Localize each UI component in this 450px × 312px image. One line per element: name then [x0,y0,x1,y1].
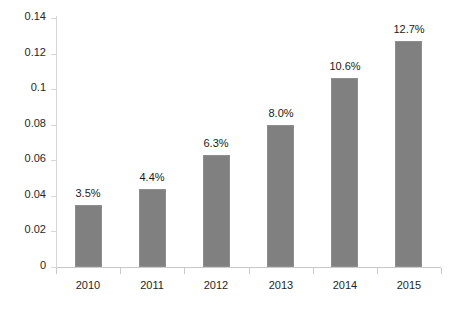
bar [75,205,102,267]
y-tick-mark [51,125,57,126]
y-tick-label: 0.12 [2,46,46,58]
x-category-label: 2011 [122,279,182,291]
bar [139,189,166,267]
bar [267,125,294,267]
y-tick-mark [51,231,57,232]
x-category-label: 2013 [251,279,311,291]
y-tick-mark [51,89,57,90]
bar [395,41,422,267]
bar-value-label: 3.5% [58,187,118,199]
x-category-label: 2012 [186,279,246,291]
y-tick-mark [51,160,57,161]
y-tick-label: 0.14 [2,10,46,22]
y-tick-mark [51,18,57,19]
bar [331,78,358,267]
bar-value-label: 10.6% [315,60,375,72]
x-category-label: 2014 [315,279,375,291]
x-tick-mark [56,268,57,274]
y-tick-label: 0.08 [2,117,46,129]
x-tick-mark [120,268,121,274]
y-tick-mark [51,54,57,55]
x-tick-mark [377,268,378,274]
x-tick-mark [441,268,442,274]
y-tick-mark [51,196,57,197]
bar [203,155,230,267]
x-tick-mark [313,268,314,274]
y-tick-label: 0.02 [2,223,46,235]
x-category-label: 2015 [379,279,439,291]
x-tick-mark [249,268,250,274]
y-tick-label: 0.06 [2,152,46,164]
y-tick-label: 0.04 [2,188,46,200]
bar-value-label: 12.7% [379,23,439,35]
bar-value-label: 8.0% [251,107,311,119]
x-tick-mark [184,268,185,274]
bar-value-label: 4.4% [122,171,182,183]
y-tick-label: 0 [2,259,46,271]
y-tick-label: 0.1 [2,81,46,93]
bar-chart: 00.020.040.060.080.10.120.14 3.5%4.4%6.3… [0,0,450,312]
bar-value-label: 6.3% [186,137,246,149]
x-category-label: 2010 [58,279,118,291]
